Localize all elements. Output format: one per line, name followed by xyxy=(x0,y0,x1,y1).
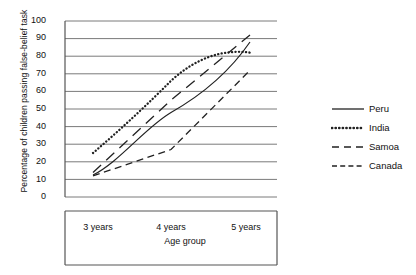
legend-label-peru: Peru xyxy=(369,103,389,114)
legend-item-india: India xyxy=(331,118,415,137)
outer-frame xyxy=(65,211,277,265)
legend-item-peru: Peru xyxy=(331,99,415,118)
legend-swatch-dotted-line xyxy=(331,123,365,133)
legend-label-india: India xyxy=(369,122,390,133)
series-line-india xyxy=(93,52,250,153)
legend-swatch-dashed-line xyxy=(331,161,365,171)
chart-legend: Peru India Samoa Canada xyxy=(331,99,415,175)
gridlines xyxy=(65,21,277,197)
legend-swatch-solid-line xyxy=(331,104,365,114)
chart-figure: Percentage of children passing false-bel… xyxy=(0,0,416,275)
legend-swatch-long-dashed-line xyxy=(331,142,365,152)
legend-item-samoa: Samoa xyxy=(331,137,415,156)
legend-label-samoa: Samoa xyxy=(369,141,399,152)
series-line-samoa xyxy=(93,35,250,172)
series-line-canada xyxy=(93,70,250,176)
legend-label-canada: Canada xyxy=(369,160,402,171)
legend-item-canada: Canada xyxy=(331,156,415,175)
